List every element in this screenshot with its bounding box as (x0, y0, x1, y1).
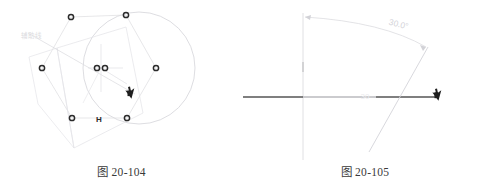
node-bottom-mid-label: H (96, 115, 102, 124)
figure-20-105: 30.0° 30 图 20-105 (243, 0, 487, 191)
figure-page: H 辅助线 图 20-104 (0, 0, 487, 191)
secondary-quad-overlay (29, 48, 74, 148)
figure-20-105-canvas: 30.0° 30 (243, 0, 487, 160)
figure-20-104-canvas: H 辅助线 (0, 0, 243, 160)
axis-value-label: 30 (361, 92, 370, 101)
drawing-cursor (431, 88, 442, 101)
rotated-line (369, 47, 428, 152)
figure-20-105-caption: 图 20-105 (243, 163, 487, 179)
annotation-label: 辅助线 (21, 31, 42, 40)
arc-arrowhead-start (305, 15, 311, 20)
angle-value-label: 30.0° (388, 17, 410, 32)
figure-20-104-caption: 图 20-104 (0, 163, 243, 179)
leader-line (28, 33, 135, 94)
figure-20-104: H 辅助线 图 20-104 (0, 0, 243, 191)
drawing-cursor (124, 86, 135, 99)
arc-arrowhead-end (420, 45, 426, 51)
